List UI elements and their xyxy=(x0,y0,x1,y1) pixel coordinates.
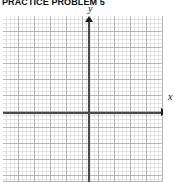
practice-problem-worksheet: PRACTICE PROBLEM 5 x y xyxy=(0,0,175,182)
y-axis-label: y xyxy=(88,4,92,14)
major-gridlines xyxy=(3,16,163,182)
x-axis-line xyxy=(3,112,163,114)
y-axis-arrow-icon xyxy=(85,16,93,22)
x-axis-arrow-icon xyxy=(161,108,163,116)
x-axis-label: x xyxy=(168,92,172,102)
y-axis-line xyxy=(88,20,90,182)
coordinate-grid-graph xyxy=(3,16,163,182)
